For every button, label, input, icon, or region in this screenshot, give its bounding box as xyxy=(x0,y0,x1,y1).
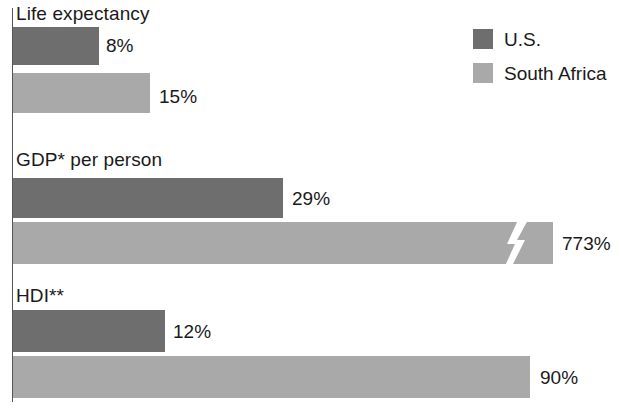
bar-south-africa-hdi xyxy=(13,356,530,398)
bar-us-hdi xyxy=(13,310,165,352)
group-label-gdp-per-person: GDP* per person xyxy=(16,150,162,169)
bar-value-south-africa-gdp-per-person: 773% xyxy=(562,234,611,253)
legend-item-us: U.S. xyxy=(473,29,541,49)
bar-value-us-life-expectancy: 8% xyxy=(106,36,133,55)
legend-item-south-africa: South Africa xyxy=(473,63,606,83)
legend-label-us: U.S. xyxy=(504,30,541,49)
bar-value-south-africa-hdi: 90% xyxy=(540,368,578,387)
bar-us-gdp-per-person xyxy=(13,178,283,218)
legend-swatch-south-africa-icon xyxy=(473,63,493,83)
group-label-life-expectancy: Life expectancy xyxy=(16,4,150,23)
bar-value-south-africa-life-expectancy: 15% xyxy=(159,87,197,106)
bar-south-africa-life-expectancy xyxy=(13,73,150,113)
legend-swatch-us-icon xyxy=(473,29,493,49)
bar-value-us-hdi: 12% xyxy=(173,322,211,341)
bar-value-us-gdp-per-person: 29% xyxy=(292,189,330,208)
legend-label-south-africa: South Africa xyxy=(504,64,606,83)
group-label-hdi: HDI** xyxy=(16,286,64,305)
bar-us-life-expectancy xyxy=(13,27,99,65)
bar-south-africa-gdp-per-person xyxy=(13,222,553,264)
bar-chart: Life expectancy 8% 15% GDP* per person 2… xyxy=(0,0,627,417)
